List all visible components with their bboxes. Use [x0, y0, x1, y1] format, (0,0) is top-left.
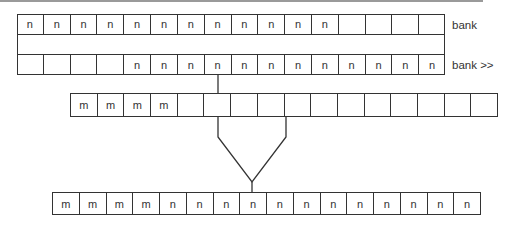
connector-lines [0, 0, 511, 228]
merge-v-connector [218, 117, 286, 182]
